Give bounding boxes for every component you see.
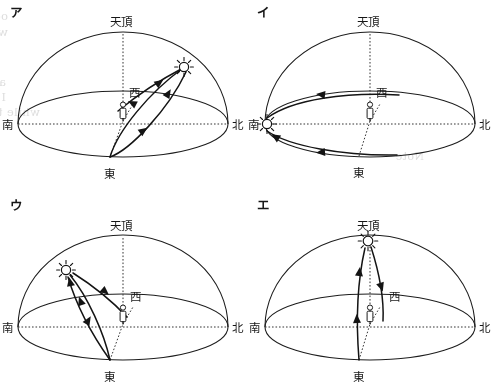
label-east: 東: [353, 370, 365, 384]
sun-path-horizon-lower: [267, 131, 397, 155]
observer-figure-icon: [120, 102, 126, 122]
label-south: 南: [249, 321, 260, 335]
label-south: 南: [2, 118, 13, 132]
label-south: 南: [2, 321, 13, 335]
observer-figure-icon: [367, 102, 373, 122]
label-west: 西: [130, 290, 141, 304]
label-north: 北: [232, 321, 244, 335]
label-zenith: 天頂: [110, 219, 133, 233]
direction-arrow-icon: [353, 314, 361, 323]
label-zenith: 天頂: [357, 219, 380, 233]
east-west-axis-line: [359, 121, 370, 156]
label-west: 西: [376, 86, 387, 100]
diagram-svg-e: 天頂 南 北 東 西: [247, 193, 494, 386]
sun-icon: [57, 261, 76, 280]
label-east: 東: [104, 167, 116, 181]
label-west: 西: [129, 86, 140, 100]
label-north: 北: [479, 118, 491, 132]
diagram-svg-i: 天頂 南 北 東 西: [247, 0, 494, 193]
direction-arrow-icon: [65, 276, 75, 286]
diagram-panel-u: ウ: [0, 193, 247, 386]
label-east: 東: [104, 370, 116, 384]
diagram-svg-a: 天頂 南 北 東 西: [0, 0, 247, 193]
sun-icon: [175, 58, 194, 77]
sun-icon: [358, 231, 378, 251]
observer-figure-icon: [367, 305, 373, 325]
diagram-panel-i: イ: [247, 0, 494, 193]
sun-path-arc-1: [357, 248, 365, 360]
direction-arrow-icon: [355, 267, 364, 277]
direction-arrow-icon: [316, 90, 326, 99]
diagram-panel-a: ア: [0, 0, 247, 193]
label-east: 東: [353, 166, 365, 180]
diagram-svg-u: 天頂 南 北 東 西: [0, 193, 247, 386]
diagram-panel-e: エ: [247, 193, 494, 386]
observer-figure-icon: [120, 305, 126, 325]
east-west-axis-line: [110, 324, 123, 360]
label-zenith: 天頂: [110, 15, 133, 29]
east-west-axis-line: [359, 324, 370, 360]
sun-icon: [258, 115, 277, 134]
label-north: 北: [232, 118, 244, 132]
label-south: 南: [248, 118, 259, 132]
label-zenith: 天頂: [357, 15, 380, 29]
sun-path-arc-3: [118, 68, 183, 111]
label-west: 西: [389, 290, 400, 304]
direction-arrow-icon: [83, 314, 95, 326]
label-north: 北: [479, 321, 491, 335]
celestial-sphere-diagram-grid: ア: [0, 0, 495, 387]
